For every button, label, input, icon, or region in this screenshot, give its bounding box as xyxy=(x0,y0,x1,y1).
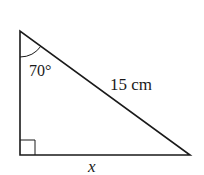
right-angle-marker xyxy=(20,140,35,155)
angle-label: 70° xyxy=(29,62,51,79)
angle-arc xyxy=(20,46,41,57)
base-label: x xyxy=(87,157,96,175)
triangle-outline xyxy=(20,31,190,155)
right-triangle-diagram: 70° 15 cm x xyxy=(0,0,204,175)
hypotenuse-label: 15 cm xyxy=(110,75,152,94)
